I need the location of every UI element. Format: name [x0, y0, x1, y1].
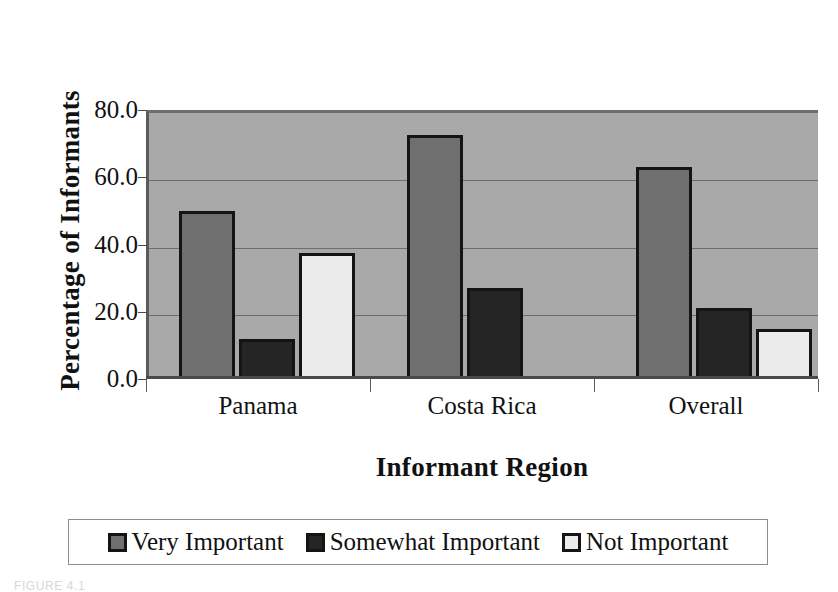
figure-bar-chart: Percentage of Informants 0.020.040.060.0…	[0, 0, 838, 592]
legend-swatch-icon	[306, 533, 325, 552]
bar	[179, 211, 235, 379]
x-axis-ticks	[146, 379, 818, 393]
figure-caption: FIGURE 4.1	[14, 579, 85, 592]
y-axis-tick-labels: 0.020.040.060.080.0	[60, 110, 138, 379]
y-tick-mark	[138, 312, 147, 313]
bar	[299, 253, 355, 379]
y-tick-mark	[138, 379, 147, 380]
y-tick-label: 40.0	[94, 231, 138, 259]
x-axis-title: Informant Region	[146, 452, 818, 483]
x-category-label: Costa Rica	[370, 392, 594, 428]
bar-groups	[149, 113, 818, 379]
bar	[239, 339, 295, 379]
legend-item: Somewhat Important	[306, 528, 540, 556]
y-tick-mark	[138, 110, 147, 111]
y-tick-label: 0.0	[107, 365, 138, 393]
x-tick-mark	[594, 379, 595, 392]
legend-swatch-icon	[562, 533, 581, 552]
chart-legend: Very ImportantSomewhat ImportantNot Impo…	[68, 519, 768, 565]
y-tick-label: 20.0	[94, 298, 138, 326]
y-tick-label: 60.0	[94, 163, 138, 191]
legend-label: Not Important	[586, 528, 728, 556]
x-category-label: Panama	[146, 392, 370, 428]
bar-group	[361, 113, 589, 379]
y-tick-mark	[138, 245, 147, 246]
x-tick-mark	[146, 379, 147, 392]
bar	[756, 329, 812, 379]
legend-item: Very Important	[108, 528, 284, 556]
bar	[467, 288, 523, 379]
x-axis-category-labels: PanamaCosta RicaOverall	[146, 392, 818, 428]
x-category-label: Overall	[594, 392, 818, 428]
legend-label: Somewhat Important	[330, 528, 540, 556]
legend-swatch-icon	[108, 533, 127, 552]
y-tick-mark	[138, 177, 147, 178]
bar-group	[149, 113, 361, 379]
bar	[407, 135, 463, 379]
bar	[636, 167, 692, 379]
bar-group	[590, 113, 818, 379]
bar	[696, 308, 752, 379]
x-tick-mark	[818, 379, 819, 392]
legend-label: Very Important	[132, 528, 284, 556]
legend-item: Not Important	[562, 528, 728, 556]
y-tick-label: 80.0	[94, 96, 138, 124]
x-tick-mark	[370, 379, 371, 392]
plot-area	[146, 110, 818, 379]
plot-inner	[149, 113, 818, 379]
